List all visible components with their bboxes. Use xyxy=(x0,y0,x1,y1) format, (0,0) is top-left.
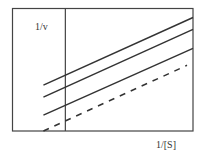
y-axis-label: 1/v xyxy=(35,21,48,32)
lineweaver-burk-chart: 1/v 1/[S] xyxy=(0,0,204,161)
x-axis-label: 1/[S] xyxy=(156,139,176,150)
